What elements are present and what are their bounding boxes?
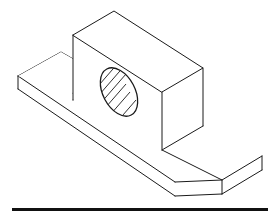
drawing-canvas [0,0,276,217]
isometric-part-figure [0,0,276,217]
bottom-rule [12,208,268,211]
base-right-bottom-edge [175,194,222,196]
